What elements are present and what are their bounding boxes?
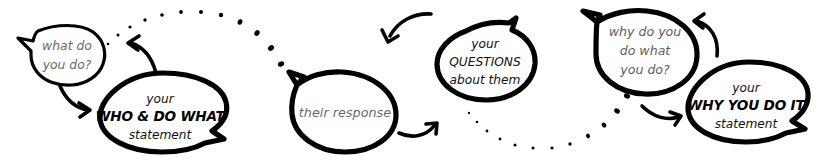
what-do-you-do-line-1: what do <box>42 38 92 53</box>
why-you-do-it-statement-bubble: your WHY YOU DO IT statement <box>688 62 809 142</box>
arrow-into-questions-bubble <box>382 14 431 42</box>
who-and-do-what-line-1: your <box>145 92 174 106</box>
why-you-do-it-line-1: your <box>731 81 760 95</box>
who-and-do-what-line-3: statement <box>129 128 193 142</box>
their-response-text: their response <box>299 105 391 120</box>
why-do-you-do-what-you-do-bubble: why do you do what you do? <box>583 10 697 94</box>
arrow-question-to-statement-3 <box>642 106 681 125</box>
questions-line-2: QUESTIONS <box>449 55 521 69</box>
who-and-do-what-line-2: WHO & DO WHAT <box>95 108 226 124</box>
arrow-response-to-next <box>399 123 437 136</box>
arrow-statement-1-upward <box>128 36 156 73</box>
what-do-you-do-line-2: you do? <box>42 57 92 72</box>
why-question-line-2: do what <box>620 43 672 58</box>
who-and-do-what-statement-bubble: your WHO & DO WHAT statement <box>95 73 226 152</box>
their-response-bubble: their response <box>289 72 396 152</box>
why-you-do-it-line-2: WHY YOU DO IT <box>688 97 807 113</box>
questions-line-1: your <box>470 37 499 51</box>
questions-line-3: about them <box>450 73 521 87</box>
why-question-line-3: you do? <box>619 62 670 77</box>
your-questions-about-them-bubble: your QUESTIONS about them <box>437 18 535 100</box>
why-you-do-it-line-3: statement <box>715 117 779 131</box>
diagram-canvas: what do you do? your WHO & DO WHAT state… <box>0 0 821 166</box>
why-question-line-1: why do you <box>609 24 682 39</box>
arrow-question-to-statement-1 <box>60 86 90 117</box>
what-do-you-do-bubble: what do you do? <box>18 26 105 86</box>
conversation-flow-diagram: what do you do? your WHO & DO WHAT state… <box>0 0 821 166</box>
